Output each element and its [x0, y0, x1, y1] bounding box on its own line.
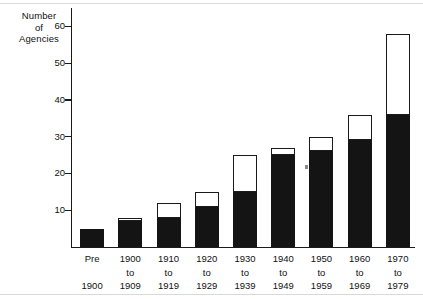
x-axis-tick-label: 1960to1969	[341, 252, 379, 293]
x-axis-tick-label-line: 1919	[149, 279, 187, 293]
stray-mark-icon	[305, 165, 308, 169]
x-axis-tick-label-line: 1970	[379, 252, 417, 266]
x-axis-tick-label-line: 1900	[111, 252, 149, 266]
x-axis-tick-label: 1970to1979	[379, 252, 417, 293]
top-divider	[0, 3, 423, 4]
bars-layer	[71, 8, 415, 248]
x-axis-tick-label-line: 1909	[111, 279, 149, 293]
bar-segment-filled	[233, 192, 257, 247]
bar	[118, 218, 142, 247]
x-axis-tick-label: 1910to1919	[149, 252, 187, 293]
x-axis-tick-label-line: 1900	[73, 279, 111, 293]
bar	[386, 34, 410, 247]
bar-segment-open	[271, 148, 295, 155]
bar-segment-filled	[80, 229, 104, 247]
bar	[348, 115, 372, 247]
x-axis-tick-label-line: 1930	[226, 252, 264, 266]
x-axis-tick-label-line: to	[264, 266, 302, 280]
x-axis-tick-label-line: 1950	[302, 252, 340, 266]
x-axis-tick-label: 1950to1959	[302, 252, 340, 293]
bar	[233, 155, 257, 247]
x-axis-tick-label-line: to	[226, 266, 264, 280]
y-axis-tick-label: 50	[45, 58, 65, 68]
x-axis-tick-label-line: to	[111, 266, 149, 280]
bar	[157, 203, 181, 247]
x-axis-tick-label-line: 1939	[226, 279, 264, 293]
bar-segment-filled	[118, 221, 142, 247]
x-axis-tick-label-line: to	[188, 266, 226, 280]
bar	[309, 137, 333, 247]
y-axis-tick-label: 40	[45, 95, 65, 105]
bar-segment-open	[157, 203, 181, 218]
bar-segment-filled	[271, 155, 295, 247]
bar-segment-open	[309, 137, 333, 152]
bar-segment-open	[386, 34, 410, 115]
x-axis-tick-labels: Pre 19001900to19091910to19191920to192919…	[71, 252, 415, 296]
x-axis-tick-label: Pre 1900	[73, 252, 111, 293]
y-axis-tick-label: 10	[45, 205, 65, 215]
x-axis-tick-label-line: 1959	[302, 279, 340, 293]
x-axis-tick-label-line: 1929	[188, 279, 226, 293]
x-axis-tick-label-line: 1979	[379, 279, 417, 293]
bar-segment-filled	[195, 207, 219, 247]
x-axis-tick-label: 1930to1939	[226, 252, 264, 293]
bar-segment-open	[348, 115, 372, 141]
x-axis-tick-label-line: Pre	[73, 252, 111, 266]
agencies-bar-chart: Number of Agencies 102030405060 Pre 1900…	[0, 0, 423, 299]
x-axis-tick-label: 1900to1909	[111, 252, 149, 293]
x-axis-tick-label-line: 1969	[341, 279, 379, 293]
x-axis-tick-label-line: 1910	[149, 252, 187, 266]
y-axis-tick-label: 20	[45, 168, 65, 178]
bar-segment-filled	[348, 140, 372, 247]
bar-segment-open	[195, 192, 219, 207]
x-axis-tick-label-line: 1920	[188, 252, 226, 266]
y-axis-tick-labels: 102030405060	[41, 8, 65, 248]
x-axis-tick-label-line: 1960	[341, 252, 379, 266]
bar-segment-filled	[309, 151, 333, 247]
y-axis-tick-label: 60	[45, 21, 65, 31]
x-axis-tick-label-line: 1949	[264, 279, 302, 293]
bar	[271, 148, 295, 247]
bar-segment-open	[233, 155, 257, 192]
bar	[80, 229, 104, 247]
y-axis-tick-label: 30	[45, 132, 65, 142]
bar-segment-filled	[157, 218, 181, 247]
bar-segment-filled	[386, 115, 410, 247]
x-axis-tick-label-line: 1940	[264, 252, 302, 266]
x-axis-tick-label-line: to	[149, 266, 187, 280]
x-axis-tick-label: 1940to1949	[264, 252, 302, 293]
x-axis-tick-label-line: to	[302, 266, 340, 280]
bar	[195, 192, 219, 247]
plot-area	[71, 8, 415, 248]
x-axis-tick-label-line	[73, 266, 111, 280]
x-axis-tick-label-line: to	[341, 266, 379, 280]
x-axis-tick-label: 1920to1929	[188, 252, 226, 293]
x-axis-tick-label-line: to	[379, 266, 417, 280]
